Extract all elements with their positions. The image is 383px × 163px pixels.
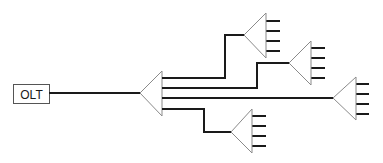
fiber-line [162, 109, 231, 132]
olt-node: OLT [14, 85, 50, 104]
branches [162, 13, 369, 153]
branch-4 [162, 109, 266, 153]
olt-label: OLT [20, 88, 43, 102]
branch-3 [162, 77, 369, 120]
splitter-icon [244, 13, 266, 58]
splitter-icon [231, 109, 252, 153]
central-splitter-icon [140, 71, 162, 116]
splitter-icon [289, 41, 311, 85]
fiber-line [162, 35, 244, 78]
splitter-icon [333, 77, 356, 120]
branch-2 [162, 41, 325, 88]
pon-topology-diagram: OLT [0, 0, 383, 163]
branch-1 [162, 13, 280, 78]
